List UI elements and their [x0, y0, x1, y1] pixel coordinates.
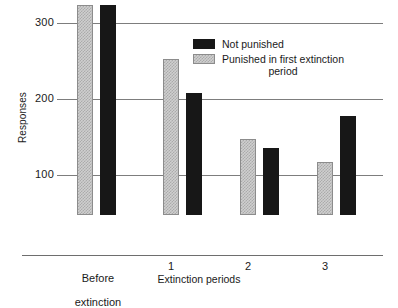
bar-punished-period-3 — [317, 162, 333, 215]
plot-area — [0, 0, 398, 255]
bar-punished-before-extinction — [77, 5, 93, 215]
x-tick-label-2: 2 — [228, 260, 268, 272]
x-axis-line — [22, 255, 383, 256]
bar-punished-period-2 — [240, 139, 256, 215]
x-axis-title: Extinction periods — [0, 273, 398, 285]
x-tick-label-1: 1 — [151, 260, 191, 272]
bar-not-punished-period-2 — [263, 148, 279, 215]
bar-punished-period-1 — [163, 59, 179, 215]
x-tick-label-3: 3 — [305, 260, 345, 272]
bar-not-punished-before-extinction — [100, 5, 116, 215]
bar-not-punished-period-1 — [186, 93, 202, 215]
x-tick-label-before-extinction-line2: extinction — [75, 296, 121, 308]
bar-not-punished-period-3 — [340, 116, 356, 215]
